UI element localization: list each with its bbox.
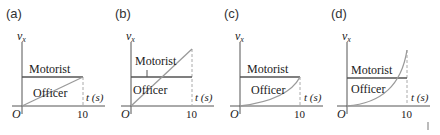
y-axis-label: vx — [126, 29, 135, 44]
velocity-time-graph: vx Motorist Officer t (s) O 10 — [218, 0, 328, 135]
tick-label-10: 10 — [294, 108, 306, 120]
motorist-label: Motorist — [135, 54, 177, 68]
tick-label-10: 10 — [77, 108, 89, 120]
velocity-time-graph: vx Motorist Officer t (s) O 10 — [325, 0, 435, 135]
edge-mark — [427, 122, 429, 130]
x-axis-label: t (s) — [304, 91, 322, 104]
panel-b: (b) vx Motorist Officer t (s) O 10 — [109, 0, 219, 135]
officer-label: Officer — [33, 86, 67, 100]
motorist-label: Motorist — [351, 63, 393, 77]
velocity-time-graph: vx Motorist Officer t (s) O 10 — [109, 0, 219, 135]
motorist-label: Motorist — [247, 62, 289, 76]
origin-label: O — [12, 107, 21, 121]
y-axis-label: vx — [17, 29, 26, 44]
origin-label: O — [230, 107, 239, 121]
motorist-label: Motorist — [29, 62, 71, 76]
y-axis-label: vx — [235, 29, 244, 44]
x-axis-label: t (s) — [86, 91, 104, 104]
officer-label: Officer — [133, 83, 167, 97]
y-axis-label: vx — [342, 29, 351, 44]
x-axis-label: t (s) — [411, 91, 429, 104]
panel-d: (d) vx Motorist Officer t (s) O 10 — [325, 0, 435, 135]
tick-label-10: 10 — [401, 108, 413, 120]
tick-label-10: 10 — [186, 108, 198, 120]
origin-label: O — [121, 107, 130, 121]
x-axis-label: t (s) — [195, 91, 213, 104]
officer-label: Officer — [351, 82, 385, 96]
velocity-time-graph: vx Motorist Officer t (s) O 10 — [0, 0, 110, 135]
panel-c: (c) vx Motorist Officer t (s) O 10 — [218, 0, 328, 135]
officer-label: Officer — [251, 83, 285, 97]
panel-a: (a) vx Motorist Officer t (s) O 10 — [0, 0, 110, 135]
origin-label: O — [337, 107, 346, 121]
